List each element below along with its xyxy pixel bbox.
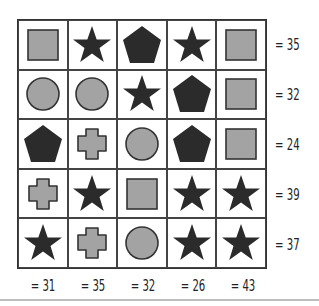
- grid-cell-r1-c1: [18, 20, 68, 70]
- grid-cell-r2-c2: [68, 70, 118, 120]
- row-sum-2: = 32: [275, 86, 300, 104]
- grid-cell-r5-c3: [117, 218, 167, 268]
- row-sum-3: = 24: [275, 136, 300, 154]
- pentagon-icon: [170, 122, 214, 166]
- circle-icon: [21, 72, 65, 116]
- circle-icon: [70, 72, 114, 116]
- grid-cell-r2-c4: [167, 70, 217, 120]
- col-sum-1: = 31: [24, 277, 62, 295]
- star-icon: [170, 172, 214, 216]
- grid-cell-r1-c3: [117, 20, 167, 70]
- pentagon-icon: [120, 23, 164, 67]
- divider-line: [0, 299, 319, 301]
- grid-cell-r4-c2: [68, 169, 118, 219]
- grid-cell-r2-c3: [117, 70, 167, 120]
- grid-cell-r5-c5: [216, 218, 266, 268]
- star-icon: [21, 221, 65, 265]
- star-icon: [170, 23, 214, 67]
- grid-cell-r1-c4: [167, 20, 217, 70]
- grid-cell-r1-c5: [216, 20, 266, 70]
- grid-cell-r4-c5: [216, 169, 266, 219]
- col-sum-4: = 26: [174, 277, 212, 295]
- star-icon: [70, 23, 114, 67]
- row-sum-1: = 35: [275, 36, 300, 54]
- row-sum-5: = 37: [275, 236, 300, 254]
- square-icon: [21, 23, 65, 67]
- pentagon-icon: [170, 72, 214, 116]
- grid-cell-r4-c1: [18, 169, 68, 219]
- grid-cell-r3-c4: [167, 119, 217, 169]
- square-icon: [219, 122, 263, 166]
- pentagon-icon: [21, 122, 65, 166]
- grid-cell-r5-c4: [167, 218, 217, 268]
- grid-cell-r4-c3: [117, 169, 167, 219]
- cross-icon: [70, 122, 114, 166]
- puzzle-grid: [17, 19, 267, 269]
- col-sum-3: = 32: [124, 277, 162, 295]
- star-icon: [70, 172, 114, 216]
- star-icon: [219, 221, 263, 265]
- col-sum-2: = 35: [74, 277, 112, 295]
- grid-cell-r5-c1: [18, 218, 68, 268]
- grid-cell-r2-c5: [216, 70, 266, 120]
- square-icon: [219, 72, 263, 116]
- grid-cell-r4-c4: [167, 169, 217, 219]
- grid-cell-r3-c3: [117, 119, 167, 169]
- cross-icon: [70, 221, 114, 265]
- square-icon: [120, 172, 164, 216]
- cross-icon: [21, 172, 65, 216]
- circle-icon: [120, 221, 164, 265]
- grid-cell-r2-c1: [18, 70, 68, 120]
- grid-cell-r3-c1: [18, 119, 68, 169]
- grid-cell-r1-c2: [68, 20, 118, 70]
- star-icon: [120, 72, 164, 116]
- col-sum-5: = 43: [224, 277, 262, 295]
- grid-cell-r5-c2: [68, 218, 118, 268]
- star-icon: [219, 172, 263, 216]
- square-icon: [219, 23, 263, 67]
- star-icon: [170, 221, 214, 265]
- grid-cell-r3-c2: [68, 119, 118, 169]
- grid-cell-r3-c5: [216, 119, 266, 169]
- circle-icon: [120, 122, 164, 166]
- row-sum-4: = 39: [275, 186, 300, 204]
